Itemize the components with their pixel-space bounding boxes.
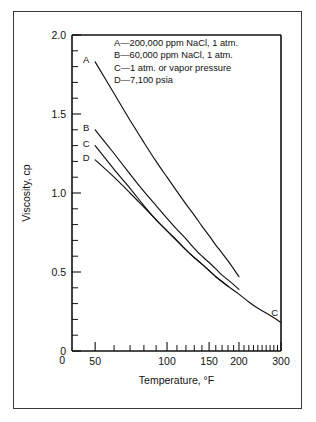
- curve-label-b: B: [83, 122, 89, 133]
- x-axis-tick-labels: 501001502003000: [59, 354, 290, 367]
- x-axis-title: Temperature, °F: [139, 374, 214, 386]
- curve-labels: ABCDC: [83, 54, 278, 318]
- legend: A—200,000 ppm NaCl, 1 atm.B—60,000 ppm N…: [114, 38, 238, 85]
- chart-svg: ABCDC 00.51.01.52.0 501001502003000 A—20…: [0, 0, 316, 422]
- curve-endpoint-label-c: C: [271, 307, 278, 318]
- y-axis-title: Viscosity, cp: [20, 164, 32, 222]
- x-tick-label: 200: [230, 355, 248, 367]
- curve-a: [95, 62, 239, 277]
- curve-d: [95, 160, 228, 286]
- legend-entry: B—60,000 ppm NaCl, 1 atm.: [114, 50, 233, 60]
- origin-zero-label: 0: [59, 354, 65, 366]
- y-tick-label: 0.5: [51, 266, 66, 278]
- y-tick-label: 1.5: [51, 108, 66, 120]
- legend-entry: D—7,100 psia: [114, 75, 174, 85]
- x-tick-label: 300: [272, 355, 290, 367]
- curve-c: [95, 146, 281, 323]
- y-axis-tick-labels: 00.51.01.52.0: [51, 29, 66, 357]
- curve-label-c: C: [83, 138, 90, 149]
- y-tick-label: 1.0: [51, 187, 66, 199]
- data-curves: [95, 62, 281, 323]
- x-tick-label: 150: [200, 355, 218, 367]
- y-tick-label: 2.0: [51, 29, 66, 41]
- x-axis-minor-ticks: [114, 345, 277, 351]
- curve-label-d: D: [83, 152, 90, 163]
- x-tick-label: 100: [158, 355, 176, 367]
- viscosity-chart: ABCDC 00.51.01.52.0 501001502003000 A—20…: [0, 0, 316, 422]
- curve-label-a: A: [83, 54, 90, 65]
- x-tick-label: 50: [89, 355, 101, 367]
- legend-entry: C—1 atm. or vapor pressure: [114, 63, 231, 73]
- legend-entry: A—200,000 ppm NaCl, 1 atm.: [114, 38, 238, 48]
- curve-b: [95, 130, 239, 290]
